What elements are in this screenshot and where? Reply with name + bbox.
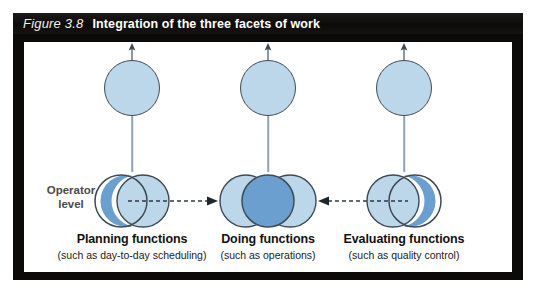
evaluating-connector-line — [403, 116, 405, 172]
planning-top-node — [104, 60, 160, 116]
evaluating-top-circle — [376, 60, 432, 116]
column-evaluating: Evaluating functions (such as quality co… — [324, 42, 484, 272]
evaluating-label-subtitle: (such as quality control) — [324, 249, 484, 261]
dashed-arrow-left-icon — [314, 194, 408, 208]
evaluating-top-node — [376, 60, 432, 116]
figure-caption-bar: Figure 3.8 Integration of the three face… — [13, 13, 523, 34]
planning-connector-line — [131, 116, 133, 172]
diagram-canvas: Operator level — [24, 42, 512, 272]
dashed-arrow-right-icon — [128, 194, 222, 208]
evaluating-label-title: Evaluating functions — [324, 232, 484, 246]
figure-container: Figure 3.8 Integration of the three face… — [0, 0, 536, 293]
evaluating-label: Evaluating functions (such as quality co… — [324, 232, 484, 261]
doing-top-circle — [240, 60, 296, 116]
figure-number: Figure 3.8 — [23, 16, 84, 31]
figure-title: Integration of the three facets of work — [93, 17, 321, 31]
planning-top-circle — [104, 60, 160, 116]
doing-connector-line — [267, 116, 269, 172]
doing-circle-cluster — [213, 172, 323, 230]
doing-top-node — [240, 60, 296, 116]
figure-frame: Operator level — [13, 34, 523, 280]
